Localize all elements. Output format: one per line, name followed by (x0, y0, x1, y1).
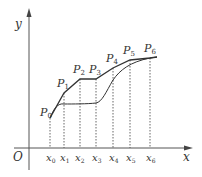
point-label-p2: P2 (72, 63, 85, 77)
polyline-approximation-diagram: P0P1P2P3P4P5P6 x0x1x2x3x4x5x6 y x O (0, 0, 202, 177)
x-axis-label: x (183, 150, 190, 164)
x-tick-label-x0: x0 (46, 152, 56, 164)
y-axis-arrow-icon (27, 8, 32, 17)
point-label-p1: P1 (56, 77, 69, 91)
x-tick-label-x6: x6 (146, 152, 156, 164)
point-label-p3: P3 (88, 63, 101, 77)
point-label-p6: P6 (143, 42, 156, 56)
x-tick-labels: x0x1x2x3x4x5x6 (46, 152, 156, 164)
point-label-p4: P4 (105, 52, 118, 66)
x-tick-label-x2: x2 (75, 152, 85, 164)
y-axis-label: y (14, 17, 22, 31)
x-axis (14, 146, 193, 151)
point-label-p0: P0 (39, 106, 52, 120)
x-tick-label-x4: x4 (109, 152, 119, 164)
origin-label: O (13, 150, 23, 164)
x-tick-label-x3: x3 (92, 152, 102, 164)
x-tick-label-x1: x1 (60, 152, 69, 164)
y-axis (27, 8, 32, 170)
point-label-p5: P5 (122, 44, 135, 58)
point-labels: P0P1P2P3P4P5P6 (39, 42, 156, 120)
x-tick-label-x5: x5 (126, 152, 136, 164)
diagram-svg: P0P1P2P3P4P5P6 x0x1x2x3x4x5x6 y x O (0, 0, 202, 177)
